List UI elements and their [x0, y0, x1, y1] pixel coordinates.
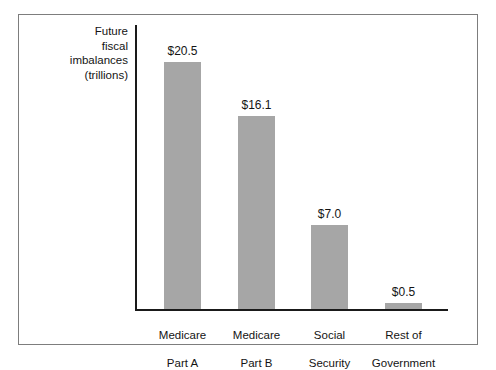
bar-category-line2-rest-of-government: Government [372, 357, 435, 369]
bar-category-line1-medicare-part-a: Medicare [159, 329, 206, 341]
bar-value-medicare-part-b: $16.1 [216, 99, 297, 112]
bar-social-security [311, 225, 348, 309]
bar-category-line2-medicare-part-b: Part B [241, 357, 273, 369]
bar-category-line1-medicare-part-b: Medicare [233, 329, 280, 341]
bar-value-medicare-part-a: $20.5 [142, 45, 223, 58]
bar-value-rest-of-government: $0.5 [363, 286, 444, 299]
y-axis-line [135, 25, 137, 311]
bar-category-line2-medicare-part-a: Part A [167, 357, 198, 369]
bar-category-line1-rest-of-government: Rest of [385, 329, 421, 341]
bar-category-line1-social-security: Social [314, 329, 345, 341]
bar-category-medicare-part-a: Medicare Part A [142, 314, 223, 370]
bar-rest-of-government [385, 303, 422, 309]
x-axis-line [135, 309, 448, 311]
bar-value-social-security: $7.0 [289, 208, 370, 221]
bar-medicare-part-a [164, 62, 201, 309]
bar-category-medicare-part-b: Medicare Part B [216, 314, 297, 370]
bar-category-line2-social-security: Security [309, 357, 351, 369]
bar-medicare-part-b [238, 116, 275, 309]
bar-category-rest-of-government: Rest of Government [358, 314, 449, 370]
y-axis-title: Future fiscal imbalances (trillions) [20, 24, 128, 82]
